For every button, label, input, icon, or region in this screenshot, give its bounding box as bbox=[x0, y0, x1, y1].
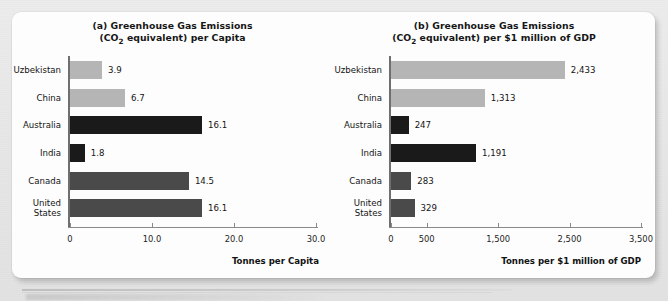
chart-b-bar-value: 2,433 bbox=[565, 65, 596, 75]
chart-a-bar[interactable] bbox=[70, 172, 189, 190]
chart-b-xtick bbox=[391, 223, 392, 228]
chart-a-xtick-label: 20.0 bbox=[225, 234, 244, 244]
chart-b-bar[interactable] bbox=[391, 116, 409, 134]
chart-panel-a: (a) Greenhouse Gas Emissions (CO2 equiva… bbox=[12, 12, 333, 278]
chart-a-bar-row[interactable]: Uzbekistan3.9 bbox=[68, 61, 318, 79]
chart-b-title-line2-pre: (CO bbox=[392, 32, 411, 43]
chart-a-title: (a) Greenhouse Gas Emissions (CO2 equiva… bbox=[12, 20, 333, 49]
chart-b-category-label: India bbox=[361, 148, 382, 158]
chart-a-xtick bbox=[316, 223, 317, 228]
chart-panels: (a) Greenhouse Gas Emissions (CO2 equiva… bbox=[12, 12, 655, 278]
chart-a-xtick-label: 0 bbox=[67, 234, 72, 244]
chart-b-bar-value: 1,313 bbox=[485, 93, 516, 103]
chart-panel-b: (b) Greenhouse Gas Emissions (CO2 equiva… bbox=[333, 12, 655, 278]
chart-b-title: (b) Greenhouse Gas Emissions (CO2 equiva… bbox=[333, 20, 655, 49]
chart-b-xtick-label: 500 bbox=[419, 234, 435, 244]
chart-b-xtick-label: 1,500 bbox=[486, 234, 510, 244]
chart-b-category-label: China bbox=[357, 93, 382, 103]
chart-b-xtick bbox=[641, 223, 642, 228]
footer-divider-secondary bbox=[22, 292, 492, 293]
chart-a-category-label: Uzbekistan bbox=[14, 65, 61, 75]
chart-b-bar-value: 329 bbox=[415, 203, 437, 213]
footer-source-text-cropped bbox=[26, 294, 326, 300]
chart-a-xtick-label: 10.0 bbox=[143, 234, 162, 244]
chart-a-bar[interactable] bbox=[70, 144, 85, 162]
chart-b-bar[interactable] bbox=[391, 89, 485, 107]
chart-b-bar-value: 283 bbox=[411, 176, 433, 186]
chart-a-bar[interactable] bbox=[70, 116, 202, 134]
chart-b-xtick-label: 2,500 bbox=[558, 234, 582, 244]
chart-a-title-line2-post: equivalent) per Capita bbox=[124, 32, 246, 43]
chart-a-bar-value: 3.9 bbox=[102, 65, 122, 75]
figure-card: (a) Greenhouse Gas Emissions (CO2 equiva… bbox=[12, 12, 655, 278]
chart-a-bar-value: 6.7 bbox=[125, 93, 145, 103]
chart-b-category-label: Canada bbox=[349, 176, 382, 186]
chart-a-category-label: India bbox=[40, 148, 61, 158]
chart-b-category-label: United States bbox=[354, 198, 382, 218]
chart-b-xtick-label: 3,500 bbox=[629, 234, 653, 244]
chart-a-bar[interactable] bbox=[70, 199, 202, 217]
chart-b-bar-row[interactable]: India1,191 bbox=[389, 144, 643, 162]
chart-b-x-axis-label: Tonnes per $1 million of GDP bbox=[501, 256, 641, 266]
footer-divider bbox=[22, 289, 512, 291]
chart-a-bar-value: 16.1 bbox=[202, 203, 227, 213]
chart-a-plot-area: 010.020.030.0Uzbekistan3.9China6.7Austra… bbox=[68, 56, 318, 228]
chart-b-category-label: Australia bbox=[344, 120, 382, 130]
chart-b-bar[interactable] bbox=[391, 61, 565, 79]
chart-a-category-label: Australia bbox=[23, 120, 61, 130]
chart-b-xtick bbox=[427, 223, 428, 228]
chart-a-bar-row[interactable]: Australia16.1 bbox=[68, 116, 318, 134]
chart-a-category-label: United States bbox=[33, 198, 61, 218]
chart-a-bar-row[interactable]: United States16.1 bbox=[68, 199, 318, 217]
chart-b-xtick bbox=[498, 223, 499, 228]
chart-b-category-label: Uzbekistan bbox=[335, 65, 382, 75]
chart-a-bar-value: 16.1 bbox=[202, 120, 227, 130]
chart-b-xtick-label: 0 bbox=[388, 234, 393, 244]
chart-a-xtick bbox=[234, 223, 235, 228]
chart-a-bar-value: 1.8 bbox=[85, 148, 105, 158]
chart-b-bar-value: 247 bbox=[409, 120, 431, 130]
chart-a-bar-row[interactable]: India1.8 bbox=[68, 144, 318, 162]
chart-a-category-label: China bbox=[36, 93, 61, 103]
chart-a-x-axis bbox=[68, 227, 318, 228]
chart-b-bar-value: 1,191 bbox=[476, 148, 507, 158]
chart-a-title-line2-pre: (CO bbox=[99, 32, 118, 43]
chart-a-xtick-label: 30.0 bbox=[307, 234, 326, 244]
chart-a-title-line1: (a) Greenhouse Gas Emissions bbox=[92, 20, 252, 31]
chart-a-xtick bbox=[152, 223, 153, 228]
chart-b-bar-row[interactable]: Australia247 bbox=[389, 116, 643, 134]
chart-b-bar-row[interactable]: Canada283 bbox=[389, 172, 643, 190]
chart-b-bar[interactable] bbox=[391, 144, 476, 162]
chart-a-xtick bbox=[70, 223, 71, 228]
chart-a-category-label: Canada bbox=[28, 176, 61, 186]
chart-b-plot-area: 05001,5002,5003,500Uzbekistan2,433China1… bbox=[389, 56, 643, 228]
chart-b-bar[interactable] bbox=[391, 199, 415, 217]
chart-b-title-line2-post: equivalent) per $1 million of GDP bbox=[416, 32, 596, 43]
chart-a-bar-row[interactable]: Canada14.5 bbox=[68, 172, 318, 190]
chart-a-bar-row[interactable]: China6.7 bbox=[68, 89, 318, 107]
chart-b-bar[interactable] bbox=[391, 172, 411, 190]
chart-a-bar[interactable] bbox=[70, 61, 102, 79]
chart-a-bar[interactable] bbox=[70, 89, 125, 107]
chart-b-bar-row[interactable]: Uzbekistan2,433 bbox=[389, 61, 643, 79]
chart-a-bar-value: 14.5 bbox=[189, 176, 214, 186]
chart-a-x-axis-label: Tonnes per Capita bbox=[232, 256, 319, 266]
chart-b-xtick bbox=[570, 223, 571, 228]
chart-b-bar-row[interactable]: United States329 bbox=[389, 199, 643, 217]
chart-b-bar-row[interactable]: China1,313 bbox=[389, 89, 643, 107]
chart-b-title-line1: (b) Greenhouse Gas Emissions bbox=[414, 20, 575, 31]
